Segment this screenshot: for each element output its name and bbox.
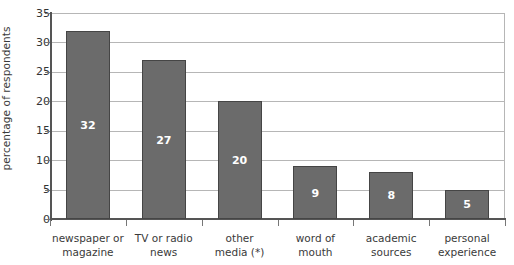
x-category-label-line: sources	[353, 245, 429, 259]
x-category-label: TV or radionews	[126, 231, 202, 259]
x-category-label-line: academic	[353, 231, 429, 245]
bar-value-label: 8	[370, 190, 412, 201]
x-category-label: newspaper ormagazine	[50, 231, 126, 259]
x-tick-mark	[505, 220, 506, 226]
y-tick-label: 0	[10, 214, 50, 225]
bar-value-label: 20	[219, 155, 261, 166]
y-tick-label: 5	[10, 184, 50, 195]
bar[interactable]: 5	[445, 190, 489, 219]
x-category-label: academicsources	[353, 231, 429, 259]
x-category-label: othermedia (*)	[202, 231, 278, 259]
x-category-label-line: personal	[429, 231, 505, 245]
x-category-label-line: magazine	[50, 245, 126, 259]
x-category-label-line: news	[126, 245, 202, 259]
x-tick-mark	[429, 220, 430, 226]
x-category-label-line: newspaper or	[50, 231, 126, 245]
y-tick-label: 35	[10, 8, 50, 19]
x-category-label-line: word of mouth	[278, 231, 354, 259]
bar[interactable]: 20	[218, 101, 262, 219]
x-category-label-line: experience	[429, 245, 505, 259]
y-tick-label: 15	[10, 125, 50, 136]
y-tick-label: 25	[10, 66, 50, 77]
bar[interactable]: 8	[369, 172, 413, 219]
bars-container: 322720985	[50, 13, 505, 219]
bar-value-label: 9	[294, 188, 336, 199]
bar[interactable]: 27	[142, 60, 186, 219]
y-axis-ticks: 05101520253035	[0, 0, 50, 265]
x-tick-mark	[278, 220, 279, 226]
x-category-label-line: other	[202, 231, 278, 245]
bar[interactable]: 32	[66, 31, 110, 219]
bar[interactable]: 9	[293, 166, 337, 219]
x-tick-mark	[126, 220, 127, 226]
x-tick-mark	[353, 220, 354, 226]
bar-chart: percentage of respondents 05101520253035…	[0, 0, 514, 265]
bar-value-label: 32	[67, 120, 109, 131]
y-tick-label: 20	[10, 96, 50, 107]
x-tick-mark	[202, 220, 203, 226]
bar-value-label: 27	[143, 135, 185, 146]
x-tick-mark	[50, 220, 51, 226]
x-category-label: word of mouth	[278, 231, 354, 259]
x-category-label-line: TV or radio	[126, 231, 202, 245]
y-tick-label: 10	[10, 155, 50, 166]
x-category-label-line: media (*)	[202, 245, 278, 259]
y-tick-label: 30	[10, 37, 50, 48]
x-category-label: personalexperience	[429, 231, 505, 259]
bar-value-label: 5	[446, 199, 488, 210]
